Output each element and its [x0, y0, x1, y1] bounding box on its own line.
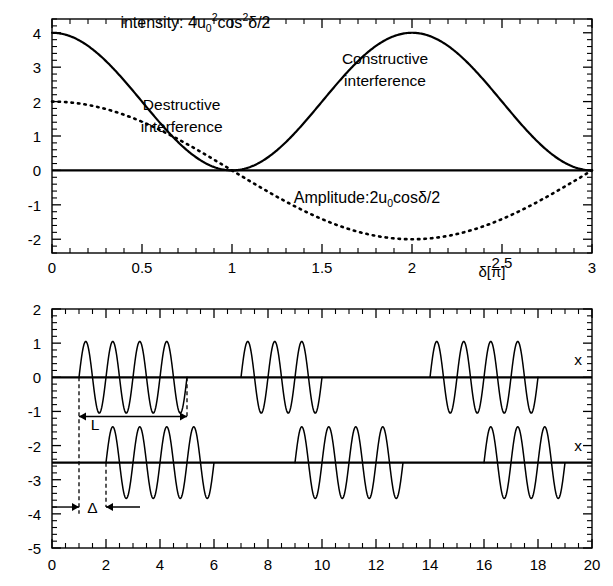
x-tick-label: 0 — [48, 556, 56, 573]
x-axis-title: δ[π] — [478, 263, 505, 280]
x-tick-label: 20 — [584, 556, 601, 573]
delta-label: Δ — [87, 499, 97, 516]
x-tick-label: 1.5 — [312, 259, 333, 276]
x-tick-label: 0 — [48, 259, 56, 276]
x-tick-label: 1 — [228, 259, 236, 276]
x-tick-label: 12 — [368, 556, 385, 573]
delta-arrow-head-right — [106, 503, 113, 511]
upper-wavetrain-axis-label: x — [574, 351, 582, 368]
x-tick-label: 14 — [422, 556, 439, 573]
x-tick-label: 18 — [530, 556, 547, 573]
y-tick-label: -1 — [28, 403, 41, 420]
intensity-formula: intensity: 4u02cos2δ/2 — [120, 11, 270, 34]
x-tick-label: 2 — [102, 556, 110, 573]
x-tick-label: 0.5 — [132, 259, 153, 276]
bottom-plot-frame — [52, 309, 592, 548]
intensity-formula-text: intensity: 4u02cos2δ/2 — [120, 11, 270, 34]
destructive-line1: Destructive — [143, 96, 221, 113]
lower-wavetrain-axis-label: x — [574, 437, 582, 454]
curve-intensity — [52, 33, 592, 171]
L-arrow-head-left — [79, 413, 86, 421]
y-tick-label: -4 — [28, 506, 41, 523]
y-tick-label: 3 — [33, 59, 41, 76]
y-tick-label: 1 — [33, 335, 41, 352]
coherence-length-annotation: L — [79, 413, 187, 433]
y-tick-label: 2 — [33, 301, 41, 318]
L-label: L — [91, 416, 100, 433]
delta-arrow-head-left — [72, 503, 79, 511]
amplitude-formula-text: Amplitude:2u0cosδ/2 — [294, 189, 440, 209]
interference-figure: 00.511.522.53δ[π]-2-101234intensity: 4u0… — [0, 0, 613, 586]
y-tick-label: 0 — [33, 162, 41, 179]
x-tick-label: 4 — [156, 556, 164, 573]
y-tick-label: 2 — [33, 94, 41, 111]
y-tick-label: -2 — [28, 438, 41, 455]
constructive-interference-label: Constructiveinterference — [342, 50, 428, 89]
constructive-line2: interference — [344, 72, 426, 89]
path-difference-annotation: Δ — [52, 499, 140, 516]
x-tick-label: 16 — [476, 556, 493, 573]
amplitude-formula: Amplitude:2u0cosδ/2 — [294, 189, 440, 209]
y-tick-label: -3 — [28, 472, 41, 489]
y-tick-label: 0 — [33, 369, 41, 386]
y-tick-label: -1 — [28, 197, 41, 214]
L-arrow-head-right — [180, 413, 187, 421]
wavetrain-chart: 02468101214161820-5-4-3-2-1012xxLΔ — [0, 292, 613, 586]
top-plot-frame — [52, 19, 592, 253]
y-tick-label: 4 — [33, 25, 41, 42]
destructive-line2: interference — [141, 118, 223, 135]
y-tick-label: 1 — [33, 128, 41, 145]
top-chart-svg: 00.511.522.53δ[π]-2-101234intensity: 4u0… — [0, 0, 613, 292]
x-tick-label: 8 — [264, 556, 272, 573]
y-tick-label: -5 — [28, 540, 41, 557]
intensity-amplitude-chart: 00.511.522.53δ[π]-2-101234intensity: 4u0… — [0, 0, 613, 292]
x-tick-label: 6 — [210, 556, 218, 573]
constructive-line1: Constructive — [342, 50, 428, 67]
x-tick-label: 2 — [408, 259, 416, 276]
x-tick-label: 3 — [588, 259, 596, 276]
y-tick-label: -2 — [28, 231, 41, 248]
bottom-chart-svg: 02468101214161820-5-4-3-2-1012xxLΔ — [0, 292, 613, 586]
x-tick-label: 10 — [314, 556, 331, 573]
